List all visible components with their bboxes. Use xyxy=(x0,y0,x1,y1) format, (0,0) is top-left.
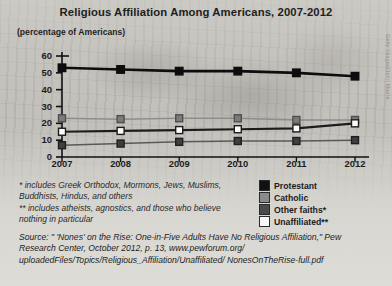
y-axis-tick-label: 10 xyxy=(30,134,52,145)
chart-legend: ProtestantCatholicOther faiths*Unaffilia… xyxy=(259,180,328,228)
legend-swatch-icon xyxy=(259,216,270,227)
y-axis-tick-label: 40 xyxy=(30,84,52,95)
x-axis-tick-label: 2008 xyxy=(98,158,144,169)
y-axis-tick-label: 50 xyxy=(30,67,52,78)
legend-item: Protestant xyxy=(259,180,328,191)
x-axis-tick-label: 2012 xyxy=(332,158,378,169)
footnote-unaffiliated: ** includes atheists, agnostics, and tho… xyxy=(19,203,234,225)
y-axis-tick-label: 60 xyxy=(30,50,52,61)
x-axis-tick-label: 2010 xyxy=(215,158,261,169)
y-axis-tick-label: 30 xyxy=(30,101,52,112)
legend-label: Catholic xyxy=(274,193,308,203)
y-axis-tick-label: 20 xyxy=(30,117,52,128)
legend-item: Unaffiliated** xyxy=(259,216,328,227)
legend-label: Unaffiliated** xyxy=(274,217,328,227)
legend-swatch-icon xyxy=(259,192,270,203)
x-axis-tick-label: 2007 xyxy=(39,158,85,169)
legend-label: Protestant xyxy=(274,181,317,191)
legend-label: Other faiths* xyxy=(274,205,326,215)
source-citation: Source: " 'Nones' on the Rise: One-in-Fi… xyxy=(19,232,371,266)
photo-credit: Getty Images/John Moore xyxy=(385,34,391,100)
footnote-other-faiths: * includes Greek Orthodox, Mormons, Jews… xyxy=(19,180,234,202)
x-axis-tick-label: 2011 xyxy=(273,158,319,169)
chart-figure: Religious Affiliation Among Americans, 2… xyxy=(0,0,392,286)
legend-item: Catholic xyxy=(259,192,328,203)
legend-swatch-icon xyxy=(259,204,270,215)
legend-swatch-icon xyxy=(259,180,270,191)
x-axis-tick-label: 2009 xyxy=(156,158,202,169)
legend-item: Other faiths* xyxy=(259,204,328,215)
